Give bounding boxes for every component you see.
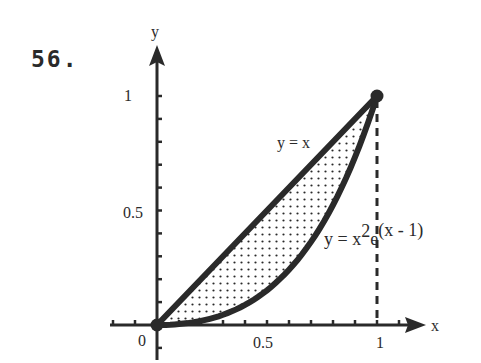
label-y-equals-x: y = x [277,134,310,152]
y-tick-label-1: 1 [124,87,132,104]
y-axis-label: y [151,23,159,41]
label-curve-2: y = x2e(x - 1) [324,220,423,249]
x-tick-label-0-5: 0.5 [253,334,273,351]
x-axis-arrow-icon [405,317,426,333]
chart: y x 0 0.5 1 0.5 1 y = x y = x2e(x - 1) [0,0,481,363]
point-origin [151,319,164,332]
x-axis-label: x [431,317,439,334]
x-tick-label-0: 0 [138,332,146,349]
x-tick-label-1: 1 [376,334,384,351]
y-tick-label-0-5: 0.5 [123,204,143,221]
point-1-1 [371,90,384,103]
